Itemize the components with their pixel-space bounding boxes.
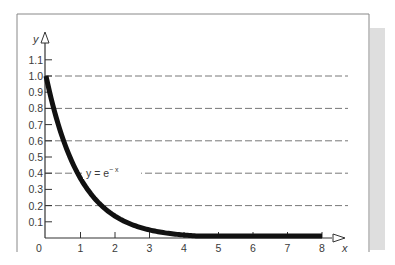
y-axis-label: y	[32, 33, 40, 45]
x-tick-label: 6	[250, 242, 256, 254]
x-tick-label: 7	[285, 242, 291, 254]
y-tick-label: 0.5	[28, 151, 43, 163]
curve-label-main: y = e	[86, 167, 109, 179]
x-tick-label: 8	[319, 242, 325, 254]
y-tick-label: 0.8	[28, 102, 43, 114]
y-tick-label: 0.1	[28, 216, 43, 228]
x-axis-label: x	[341, 242, 348, 254]
x-tick-label: 3	[147, 242, 153, 254]
x-tick-label: 4	[181, 242, 187, 254]
y-tick-label: 1.1	[28, 54, 43, 66]
x-tick-label: 5	[216, 242, 222, 254]
curve-exp-neg-x	[46, 76, 322, 236]
x-tick-label: 2	[112, 242, 118, 254]
y-tick-label: 0.9	[28, 86, 43, 98]
exponential-decay-chart: 0.10.20.30.40.50.60.70.80.91.01.1 123456…	[0, 0, 395, 265]
y-tick-label: 0.7	[28, 119, 43, 131]
y-tick-label: 0.3	[28, 183, 43, 195]
y-tick-label: 1.0	[28, 70, 43, 82]
y-tick-label: 0.6	[28, 135, 43, 147]
x-axis-arrow-icon	[333, 234, 345, 242]
origin-label: 0	[36, 242, 42, 254]
x-tick-label: 1	[78, 242, 84, 254]
y-axis-arrow-icon	[41, 32, 49, 43]
y-tick-label: 0.4	[28, 167, 43, 179]
curve-label-exponent: − x	[109, 166, 119, 173]
frame-shadow	[370, 28, 385, 250]
y-tick-label: 0.2	[28, 200, 43, 212]
gridlines	[45, 76, 348, 206]
